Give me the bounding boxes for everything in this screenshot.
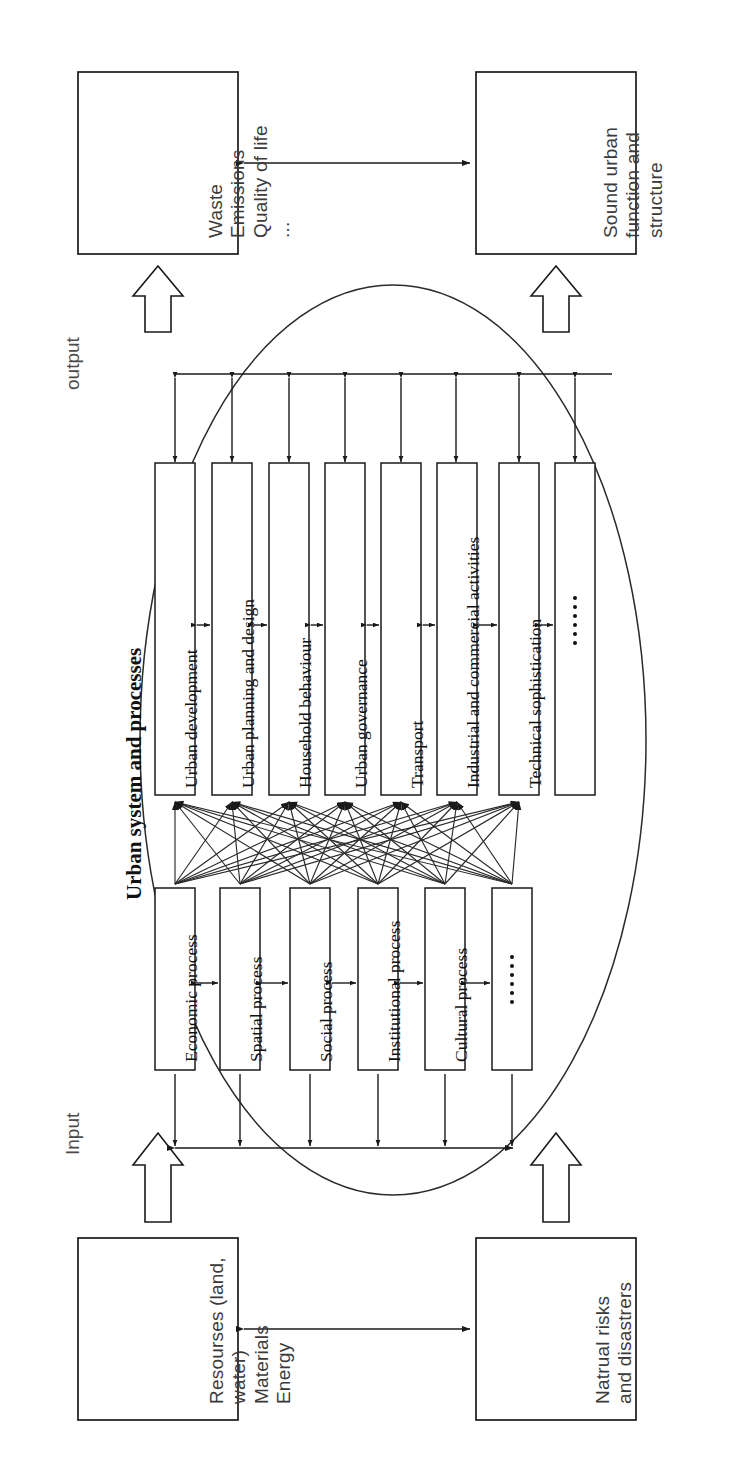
process-box-ellipsis-dots — [510, 955, 514, 1004]
process-boxes-group — [155, 888, 532, 1070]
output-right-block-arrow — [531, 266, 581, 332]
output-left-block-arrow — [133, 266, 183, 332]
process-bus-connectors — [175, 1074, 512, 1146]
box-line: water) — [228, 1257, 250, 1404]
input-right-block-arrow — [531, 1133, 581, 1222]
function-box-label: Urban planning and design — [238, 599, 259, 788]
process-box-label: Economic process — [181, 934, 202, 1062]
function-box-label: Technical sophistication — [525, 619, 546, 788]
process-box-label: Spatial process — [246, 957, 267, 1062]
page-title: Urban system and processes — [122, 648, 147, 900]
function-box-label: Transport — [407, 721, 428, 788]
function-box-ellipsis-dots — [573, 596, 577, 645]
input-left-block-arrow — [133, 1133, 183, 1222]
process-box-label: Social process — [316, 961, 337, 1062]
inputs-risks-box-text: Natrual risks and disastrers — [592, 1282, 637, 1404]
box-line: Energy — [273, 1257, 295, 1404]
inputs-resources-box-text: Resourses (land, water) Materials Energy — [206, 1257, 296, 1404]
box-line: structure — [645, 127, 667, 238]
process-box-label: Cultural process — [451, 948, 472, 1062]
box-line: and disastrers — [614, 1282, 636, 1404]
function-box-label: Household behaviour — [295, 638, 316, 788]
outputs-urban-function-box-text: Sound urban function and structure — [600, 127, 667, 238]
output-label: output — [62, 337, 84, 390]
function-box-label: Urban development — [181, 650, 202, 789]
box-line: Resourses (land, — [206, 1257, 228, 1404]
function-box-label: Urban governance — [351, 659, 372, 788]
figure-canvas: Waste Emissions Quality of life ... Soun… — [0, 0, 750, 1483]
box-ellipsis: ... — [272, 125, 294, 238]
box-line: Natrual risks — [592, 1282, 614, 1404]
input-label: Input — [62, 1113, 84, 1155]
function-box-label: Industrial and commercial activities — [463, 537, 484, 788]
function-bus-connectors — [175, 378, 575, 462]
box-line: function and — [622, 127, 644, 238]
box-line: Materials — [251, 1257, 273, 1404]
process-box-label: Institutional process — [384, 921, 405, 1062]
box-line: Sound urban — [600, 127, 622, 238]
box-line: Waste — [205, 125, 227, 238]
box-line: Quality of life — [250, 125, 272, 238]
outputs-emissions-box-text: Waste Emissions Quality of life ... — [205, 125, 295, 238]
box-line: Emissions — [227, 125, 249, 238]
process-function-cross-links — [175, 802, 519, 884]
